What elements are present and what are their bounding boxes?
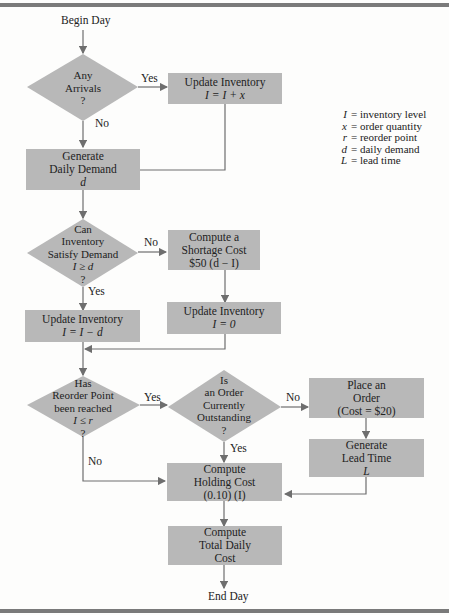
process-holding-cost: Compute Holding Cost (0.10) (I): [167, 463, 282, 501]
edge-label-outstanding-no: No: [286, 391, 300, 403]
decision-order-outstanding-text: Is an Order Currently Outstanding ?: [174, 372, 274, 438]
process-total-daily-cost: Compute Total Daily Cost: [168, 526, 282, 565]
process-update-inventory-arrival: Update Inventory I = I + x: [168, 73, 282, 104]
flowchart-figure: Begin Day End Day Any Arrivals ? Can Inv…: [0, 0, 449, 615]
process-update-inventory-zero: Update Inventory I = 0: [167, 302, 281, 334]
variable-legend: I= inventory level x= order quantity r= …: [335, 109, 426, 167]
legend-row: I= inventory level: [335, 109, 426, 121]
edge-label-arrivals-yes: Yes: [141, 72, 158, 84]
legend-row: L= lead time: [335, 155, 426, 167]
decision-any-arrivals-text: Any Arrivals ?: [43, 66, 123, 110]
process-generate-lead-time: Generate Lead Time L: [309, 439, 424, 477]
process-update-inventory-demand: Update Inventory I = I − d: [25, 310, 140, 342]
process-place-order: Place an Order (Cost = $20): [309, 378, 424, 418]
edge-label-reorder-no: No: [88, 455, 102, 467]
legend-row: r= reorder point: [335, 132, 426, 144]
edge-label-reorder-yes: Yes: [144, 391, 161, 403]
decision-reorder-reached-text: Has Reorder Point been reached I ≤ r ?: [33, 377, 133, 439]
decision-can-satisfy-text: Can Inventory Satisfy Demand I ≥ d ?: [33, 221, 133, 287]
process-generate-daily-demand: Generate Daily Demand d: [26, 149, 140, 190]
edge-label-satisfy-no: No: [144, 236, 158, 248]
edge-label-arrivals-no: No: [95, 117, 109, 129]
end-day-terminal: End Day: [208, 590, 249, 602]
edge-label-outstanding-yes: Yes: [230, 442, 247, 454]
process-shortage-cost: Compute a Shortage Cost $50 (d − I): [168, 230, 260, 270]
edge-label-satisfy-yes: Yes: [88, 285, 105, 297]
begin-day-terminal: Begin Day: [61, 14, 111, 26]
